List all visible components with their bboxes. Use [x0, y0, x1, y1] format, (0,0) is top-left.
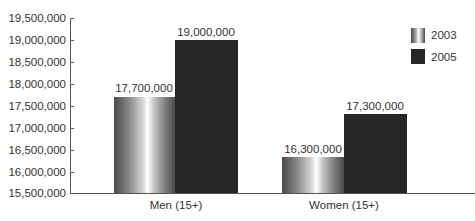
y-tick: [70, 18, 74, 19]
y-tick: [70, 40, 74, 41]
y-tick-label: 18,000,000: [0, 78, 66, 90]
y-tick-label: 19,000,000: [0, 34, 66, 46]
y-tick-label: 15,500,000: [0, 187, 66, 199]
y-tick-label: 16,000,000: [0, 166, 66, 178]
y-tick-label: 17,000,000: [0, 122, 66, 134]
y-tick-label: 17,500,000: [0, 100, 66, 112]
y-tick: [70, 128, 74, 129]
y-tick: [70, 172, 74, 173]
value-label-men-2003: 17,700,000: [99, 82, 189, 94]
bar-women-2003: [282, 157, 344, 193]
value-label-men-2005: 19,000,000: [161, 26, 251, 38]
legend-label-2003: 2003: [431, 29, 457, 41]
value-label-women-2005: 17,300,000: [330, 100, 420, 112]
x-tick-label-men: Men (15+): [116, 199, 236, 211]
bar-chart: 19,500,000 19,000,000 18,500,000 18,000,…: [0, 0, 475, 221]
legend-swatch-2005: [411, 49, 425, 64]
y-tick-label: 16,500,000: [0, 144, 66, 156]
legend-label-2005: 2005: [431, 51, 457, 63]
x-tick-label-women: Women (15+): [284, 199, 404, 211]
value-label-women-2003: 16,300,000: [268, 143, 358, 155]
y-tick: [70, 106, 74, 107]
y-tick: [70, 150, 74, 151]
y-tick: [70, 62, 74, 63]
x-axis: [70, 193, 475, 194]
y-tick: [70, 84, 74, 85]
bar-men-2003: [114, 97, 175, 193]
y-tick-label: 18,500,000: [0, 56, 66, 68]
legend-swatch-2003: [411, 28, 425, 43]
y-tick-label: 19,500,000: [0, 12, 66, 24]
bar-men-2005: [175, 40, 238, 193]
